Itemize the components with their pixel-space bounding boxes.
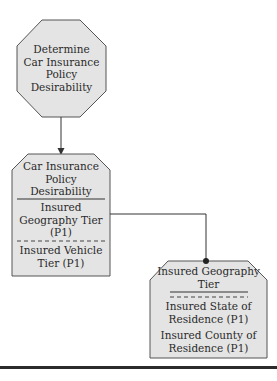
text-line: Car Insurance xyxy=(17,56,106,69)
text-line: Desirability xyxy=(17,81,106,94)
bottom-rule xyxy=(0,366,277,369)
text-line: Tier (P1) xyxy=(12,257,110,270)
text-line: (P1) xyxy=(12,226,110,239)
text-line: Insured County of xyxy=(150,329,267,342)
vehicle-tier-key-attribute: Insured Vehicle Tier (P1) xyxy=(12,244,110,269)
geography-tier-key-attribute: Insured Geography Tier (P1) xyxy=(12,201,110,239)
text-line: Geography Tier xyxy=(12,214,110,227)
text-line: Policy xyxy=(17,68,106,81)
text-line: Residence (P1) xyxy=(150,313,267,326)
text-line: Insured Vehicle xyxy=(12,244,110,257)
policy-desirability-title: Car Insurance Policy Desirability xyxy=(12,160,110,198)
geography-tier-title: Insured Geography Tier xyxy=(150,265,267,290)
text-line: Insured Geography xyxy=(150,265,267,278)
text-line: Car Insurance xyxy=(12,160,110,173)
state-of-residence-attribute: Insured State of Residence (P1) xyxy=(150,300,267,325)
relationship-connector xyxy=(110,214,206,261)
text-line: Desirability xyxy=(12,185,110,198)
text-line: Tier xyxy=(150,278,267,291)
connector-dot-icon xyxy=(203,258,209,264)
text-line: Determine xyxy=(17,43,106,56)
text-line: Insured State of xyxy=(150,300,267,313)
text-line: Policy xyxy=(12,173,110,186)
decision-node-label: Determine Car Insurance Policy Desirabil… xyxy=(17,43,106,93)
county-of-residence-attribute: Insured County of Residence (P1) xyxy=(150,329,267,354)
text-line: Insured xyxy=(12,201,110,214)
text-line: Residence (P1) xyxy=(150,342,267,355)
